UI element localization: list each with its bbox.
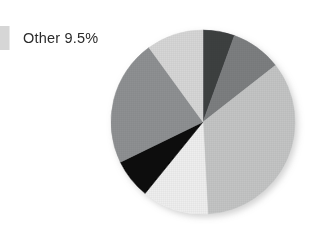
pie-slice-group: [111, 30, 295, 214]
chart-canvas: Other 9.5%: [0, 0, 315, 239]
pie-chart: [0, 0, 315, 239]
pie-chart-svg: [0, 0, 315, 239]
